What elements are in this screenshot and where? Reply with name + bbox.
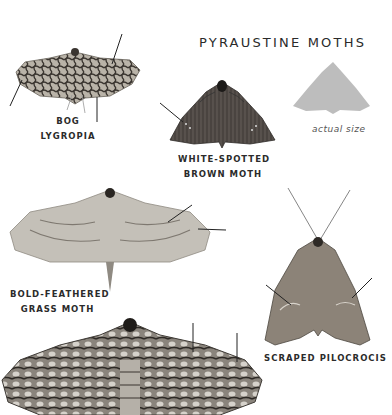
moth-label-bold-feathered-grass: BOLD-FEATHERED GRASS MOTH [10, 287, 105, 317]
moth-label-bog-lygropia: BOG LYGROPIA [38, 114, 98, 144]
size-reference-caption: actual size [312, 124, 366, 134]
moth-white-spotted-brown [170, 80, 275, 148]
moth-bold-feathered-grass [10, 188, 210, 292]
moth-silhouette-icon [293, 62, 370, 114]
moth-scraped-pilocrocis [265, 188, 370, 345]
moth-label-white-spotted-brown: WHITE-SPOTTED BROWN MOTH [178, 152, 268, 182]
moth-bog-lygropia [16, 48, 140, 113]
moth-label-scraped-pilocrocis: SCRAPED PILOCROCIS [263, 351, 388, 366]
moth-bottom-large [2, 318, 262, 415]
pointer-arrow-white-spotted [160, 103, 183, 122]
